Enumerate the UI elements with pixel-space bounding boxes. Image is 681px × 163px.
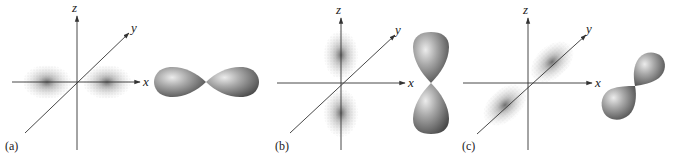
x-axis-label: x	[594, 75, 601, 90]
panel-label-c: (c)	[462, 139, 475, 153]
boundary-lobes-px	[154, 67, 259, 97]
z-axis-label: z	[522, 2, 528, 17]
axes-c	[463, 18, 592, 150]
y-axis-label: y	[584, 21, 592, 36]
panel-c: z x y (c)	[462, 2, 665, 153]
boundary-lobes-py	[602, 52, 665, 119]
panel-label-a: (a)	[5, 139, 18, 153]
y-axis-label: y	[393, 22, 401, 37]
y-axis-label: y	[129, 20, 137, 35]
y-axis	[477, 35, 586, 134]
axes-b	[277, 18, 405, 150]
z-axis-label: z	[335, 2, 341, 17]
boundary-lobes-pz	[413, 32, 449, 134]
panel-a: z x y (a)	[5, 0, 259, 153]
p-orbitals-figure: z x y (a) z x y (b)	[0, 0, 681, 163]
dot-cloud-py	[476, 33, 582, 133]
panel-b: z x y (b)	[275, 2, 449, 153]
z-axis-label: z	[71, 0, 77, 15]
panel-label-b: (b)	[275, 139, 289, 153]
x-axis-label: x	[142, 74, 149, 89]
x-axis-label: x	[407, 75, 414, 90]
